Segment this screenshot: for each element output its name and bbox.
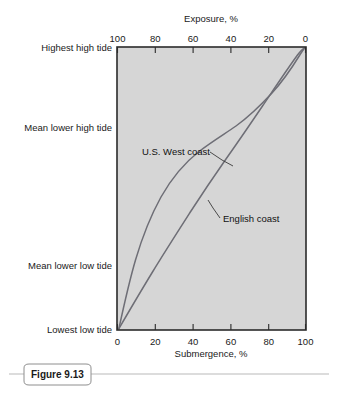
plot-area-background — [117, 47, 306, 330]
top-tick-label-80: 80 — [150, 33, 161, 44]
bottom-tick-label-80: 80 — [263, 336, 274, 347]
y-label-mean-lower-high-tide: Mean lower high tide — [24, 122, 112, 133]
bottom-tick-label-0: 0 — [115, 336, 120, 347]
y-label-mean-lower-low-tide: Mean lower low tide — [28, 260, 112, 271]
y-label-lowest-low-tide: Lowest low tide — [47, 324, 112, 335]
bottom-tick-label-100: 100 — [298, 336, 314, 347]
bottom-axis-title: Submergence, % — [175, 348, 248, 359]
top-tick-label-40: 40 — [226, 33, 237, 44]
bottom-tick-label-40: 40 — [188, 336, 199, 347]
top-tick-label-0: 0 — [303, 33, 308, 44]
series-label-english-coast: English coast — [223, 213, 280, 224]
bottom-tick-label-60: 60 — [226, 336, 237, 347]
top-tick-label-20: 20 — [263, 33, 274, 44]
series-label-us-west-coast: U.S. West coast — [142, 146, 210, 157]
y-label-highest-high-tide: Highest high tide — [41, 42, 112, 53]
top-tick-label-60: 60 — [188, 33, 199, 44]
tide-exposure-submergence-chart: Exposure, % 100 80 60 40 20 0 0 20 40 60… — [0, 0, 337, 394]
figure-container: Exposure, % 100 80 60 40 20 0 0 20 40 60… — [0, 0, 337, 394]
top-axis-title: Exposure, % — [184, 13, 238, 24]
figure-caption-label: Figure 9.13 — [31, 369, 84, 380]
bottom-tick-label-20: 20 — [150, 336, 161, 347]
